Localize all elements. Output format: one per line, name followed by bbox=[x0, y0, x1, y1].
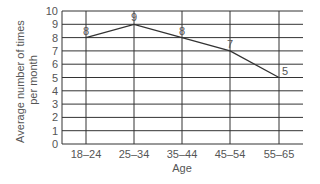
x-tick-label: 25–34 bbox=[119, 148, 150, 160]
y-axis-ticks: 012345678910 bbox=[46, 5, 58, 150]
x-tick-label: 18–24 bbox=[71, 148, 102, 160]
y-tick-label: 6 bbox=[52, 58, 58, 70]
x-axis-ticks: 18–2425–3435–4445–5455–65 bbox=[71, 148, 295, 160]
data-point-label: 7 bbox=[227, 38, 233, 50]
y-tick-label: 3 bbox=[52, 98, 58, 110]
x-axis-label: Age bbox=[172, 162, 192, 174]
data-point-label: 8 bbox=[83, 25, 89, 37]
y-tick-label: 5 bbox=[52, 72, 58, 84]
y-tick-label: 4 bbox=[52, 85, 58, 97]
line-chart: 012345678910 18–2425–3435–4445–5455–65 8… bbox=[0, 0, 320, 184]
x-tick-label: 35–44 bbox=[167, 148, 198, 160]
y-tick-label: 8 bbox=[52, 32, 58, 44]
data-point-label: 9 bbox=[131, 11, 137, 23]
y-axis-label: Average number of times per month bbox=[14, 17, 39, 143]
y-tick-label: 10 bbox=[46, 5, 58, 17]
data-point-label: 5 bbox=[282, 65, 288, 77]
x-tick-label: 55–65 bbox=[264, 148, 295, 160]
y-tick-label: 7 bbox=[52, 45, 58, 57]
data-labels: 89875 bbox=[83, 11, 288, 76]
y-tick-label: 0 bbox=[52, 138, 58, 150]
y-tick-label: 1 bbox=[52, 125, 58, 137]
x-tick-label: 45–54 bbox=[215, 148, 246, 160]
y-tick-label: 2 bbox=[52, 111, 58, 123]
y-tick-label: 9 bbox=[52, 18, 58, 30]
data-point-label: 8 bbox=[179, 25, 185, 37]
